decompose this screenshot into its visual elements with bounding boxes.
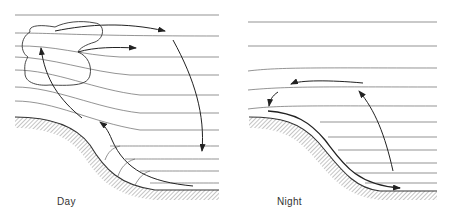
diagram-canvas xyxy=(0,0,453,217)
sinking-arrow xyxy=(269,92,278,106)
day-panel xyxy=(15,15,219,200)
day-arrows xyxy=(41,25,203,186)
outflow-arrow-upper xyxy=(55,25,165,31)
night-isolines xyxy=(248,22,437,183)
return-flow-arrow xyxy=(291,81,363,84)
night-ground-hatch xyxy=(249,117,437,200)
day-isolines xyxy=(15,15,219,185)
night-panel xyxy=(248,22,437,200)
day-label: Day xyxy=(57,196,76,207)
outflow-arrow-lower xyxy=(78,47,136,52)
day-ground-hatch xyxy=(15,117,219,200)
night-label: Night xyxy=(277,196,302,207)
rising-flow-arrow xyxy=(359,91,393,171)
cloud-outline xyxy=(22,22,102,86)
updraft-arrow xyxy=(41,48,82,118)
